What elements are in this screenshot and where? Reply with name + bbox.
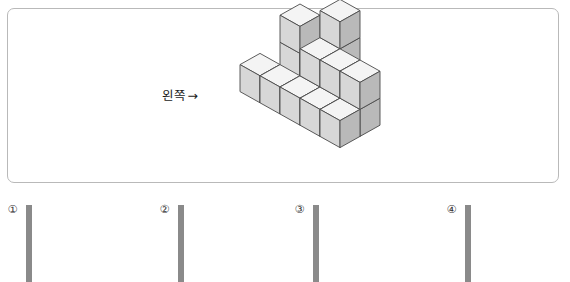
- grid-cell[interactable]: [31, 244, 32, 263]
- grid-row: [314, 225, 319, 244]
- grid-row: [27, 225, 32, 244]
- option-4-grid[interactable]: [465, 205, 471, 282]
- option-4-number: ④: [444, 202, 459, 217]
- grid-row: [314, 206, 319, 225]
- grid-cell[interactable]: [470, 225, 471, 244]
- grid-cell[interactable]: [470, 263, 471, 282]
- grid-row: [179, 263, 184, 282]
- grid-cell[interactable]: [318, 263, 319, 282]
- grid-cell[interactable]: [31, 263, 32, 282]
- grid-cell[interactable]: [470, 206, 471, 225]
- grid-row: [314, 263, 319, 282]
- grid-row: [314, 244, 319, 263]
- option-3-grid[interactable]: [313, 205, 319, 282]
- grid-cell[interactable]: [318, 206, 319, 225]
- option-3-number: ③: [292, 202, 307, 217]
- grid-cell[interactable]: [183, 244, 184, 263]
- grid-cell[interactable]: [318, 225, 319, 244]
- grid-row: [27, 244, 32, 263]
- grid-row: [27, 263, 32, 282]
- grid-row: [466, 263, 471, 282]
- option-1-number: ①: [5, 202, 20, 217]
- isometric-cube-stack: [0, 0, 570, 190]
- option-1-grid[interactable]: [26, 205, 32, 282]
- answer-options-row: ①②③④: [0, 196, 570, 282]
- grid-cell[interactable]: [31, 206, 32, 225]
- grid-row: [179, 244, 184, 263]
- option-2-grid[interactable]: [178, 205, 184, 282]
- grid-row: [466, 206, 471, 225]
- grid-row: [179, 206, 184, 225]
- grid-row: [466, 225, 471, 244]
- grid-cell[interactable]: [318, 244, 319, 263]
- grid-row: [466, 244, 471, 263]
- grid-row: [179, 225, 184, 244]
- option-2-number: ②: [157, 202, 172, 217]
- grid-row: [27, 206, 32, 225]
- grid-cell[interactable]: [183, 225, 184, 244]
- cube: [340, 60, 380, 109]
- grid-cell[interactable]: [183, 263, 184, 282]
- grid-cell[interactable]: [183, 206, 184, 225]
- grid-cell[interactable]: [470, 244, 471, 263]
- grid-cell[interactable]: [31, 225, 32, 244]
